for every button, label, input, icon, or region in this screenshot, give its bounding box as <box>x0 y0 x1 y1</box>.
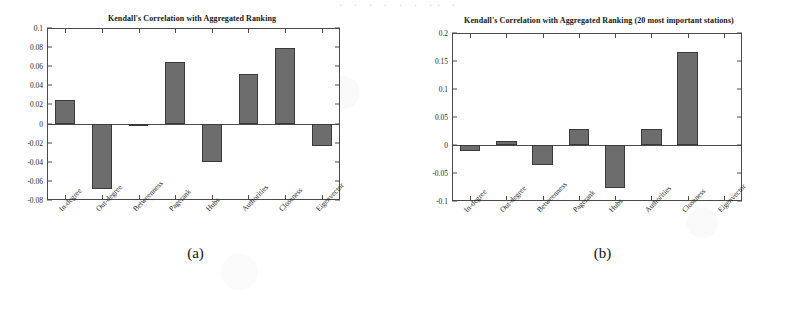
x-axis-tick-top <box>506 33 507 38</box>
y-axis-tick <box>452 33 457 34</box>
bar <box>202 124 222 162</box>
bar <box>532 145 552 165</box>
y-axis-label: 0 <box>39 119 43 128</box>
y-axis-label: 0.05 <box>435 113 448 122</box>
y-axis-label: 0.08 <box>30 43 43 52</box>
y-axis-tick <box>47 180 52 181</box>
y-axis-tick-right <box>335 47 340 48</box>
y-axis-tick-right <box>335 142 340 143</box>
zero-baseline <box>452 145 742 146</box>
y-axis-label: 0.1 <box>439 85 448 94</box>
bar <box>641 129 661 145</box>
y-axis-label: 0.15 <box>435 57 448 66</box>
bar <box>496 141 516 145</box>
y-axis-tick <box>47 104 52 105</box>
plot-frame-a <box>47 28 340 200</box>
figure-panel-a: Kendall's Correlation with Aggregated Ra… <box>0 0 399 309</box>
y-axis-tick <box>47 200 52 201</box>
bar <box>55 100 75 124</box>
x-axis-tick-top <box>543 33 544 38</box>
y-axis-tick-right <box>335 66 340 67</box>
bar <box>677 52 697 145</box>
x-axis-tick-top <box>102 28 103 33</box>
x-axis-tick-top <box>65 28 66 33</box>
y-axis-tick <box>452 89 457 90</box>
figure-row: Kendall's Correlation with Aggregated Ra… <box>0 0 798 309</box>
y-axis-tick <box>47 66 52 67</box>
y-axis-tick-right <box>335 104 340 105</box>
x-axis-tick-top <box>285 28 286 33</box>
bar <box>460 145 480 151</box>
chart-title-a: Kendall's Correlation with Aggregated Ra… <box>42 14 342 23</box>
y-axis-tick-right <box>737 117 742 118</box>
figure-panel-b: Kendall's Correlation with Aggregated Ra… <box>399 0 798 309</box>
y-axis-tick <box>452 201 457 202</box>
x-axis-tick-top <box>651 33 652 38</box>
bar <box>569 129 589 145</box>
chart-title-b: Kendall's Correlation with Aggregated Ra… <box>409 16 789 25</box>
y-axis-label: -0.02 <box>27 138 43 147</box>
bar <box>312 124 332 147</box>
y-axis-label: -0.04 <box>27 157 43 166</box>
x-axis-tick-top <box>175 28 176 33</box>
y-axis-tick-right <box>737 89 742 90</box>
x-axis-tick-top <box>688 33 689 38</box>
y-axis-label: 0.04 <box>30 81 43 90</box>
y-axis-tick-right <box>737 201 742 202</box>
y-axis-label: 0.02 <box>30 100 43 109</box>
x-axis-tick-top <box>248 28 249 33</box>
y-axis-tick-right <box>335 200 340 201</box>
bar <box>129 124 149 126</box>
caption-b: (b) <box>403 245 798 262</box>
y-axis-tick <box>452 117 457 118</box>
plot-area-b: 0.20.150.10.050-0.05-0.1In-degreeOut-deg… <box>452 33 742 201</box>
x-axis-tick-top <box>322 28 323 33</box>
y-axis-tick-right <box>737 61 742 62</box>
y-axis-label: -0.05 <box>432 169 448 178</box>
y-axis-tick-right <box>335 28 340 29</box>
x-axis-tick-top <box>724 33 725 38</box>
y-axis-tick <box>47 47 52 48</box>
y-axis-label: 0.06 <box>30 62 43 71</box>
y-axis-tick <box>47 161 52 162</box>
bar <box>165 62 185 123</box>
y-axis-tick-right <box>335 161 340 162</box>
y-axis-tick <box>452 61 457 62</box>
y-axis-tick <box>452 173 457 174</box>
y-axis-label: -0.1 <box>436 197 448 206</box>
x-axis-tick-top <box>579 33 580 38</box>
bar <box>239 74 259 124</box>
x-axis-tick-top <box>212 28 213 33</box>
y-axis-tick <box>47 142 52 143</box>
y-axis-tick <box>47 85 52 86</box>
caption-a: (a) <box>0 245 395 262</box>
plot-area-a: 0.10.080.060.040.020-0.02-0.04-0.06-0.08… <box>47 28 340 200</box>
y-axis-label: 0.1 <box>34 24 43 33</box>
y-axis-tick-right <box>737 173 742 174</box>
y-axis-label: 0 <box>444 141 448 150</box>
y-axis-label: -0.08 <box>27 196 43 205</box>
y-axis-tick-right <box>737 33 742 34</box>
plot-frame-b <box>452 33 742 201</box>
y-axis-label: -0.06 <box>27 176 43 185</box>
zero-baseline <box>47 124 340 125</box>
bar <box>92 124 112 190</box>
x-axis-tick-top <box>139 28 140 33</box>
x-axis-tick-top <box>615 33 616 38</box>
y-axis-label: 0.2 <box>439 29 448 38</box>
y-axis-tick-right <box>335 85 340 86</box>
y-axis-tick <box>47 28 52 29</box>
bar <box>275 48 295 123</box>
x-axis-tick-top <box>470 33 471 38</box>
bar <box>605 145 625 188</box>
